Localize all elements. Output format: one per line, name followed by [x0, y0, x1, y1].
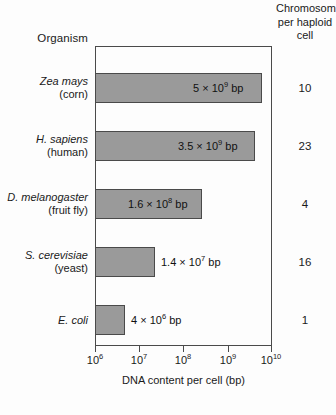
axis-tick-label: 109 — [208, 354, 248, 366]
chart-row: D. melanogaster (fruit fly) 1.6 × 108 bp… — [0, 189, 336, 219]
bar-value-label: 5 × 109 bp — [193, 82, 243, 94]
bar-value-label: 1.4 × 107 bp — [161, 256, 221, 268]
organism-label: D. melanogaster (fruit fly) — [0, 191, 88, 217]
x-axis-title: DNA content per cell (bp) — [95, 374, 272, 386]
organism-label: H. sapiens (human) — [0, 133, 88, 159]
organism-label: S. cerevisiae (yeast) — [0, 249, 88, 275]
chromosome-count: 1 — [276, 314, 334, 326]
organism-scientific-name: Zea mays — [0, 75, 88, 88]
axis-tick-label: 1010 — [251, 354, 291, 366]
axis-tick — [271, 346, 272, 352]
axis-tick-label: 108 — [163, 354, 203, 366]
organism-column-header: Organism — [8, 32, 88, 44]
axis-tick-label: 107 — [119, 354, 159, 366]
axis-tick-label: 106 — [75, 354, 115, 366]
organism-scientific-name: E. coli — [0, 314, 88, 327]
organism-scientific-name: S. cerevisiae — [0, 249, 88, 262]
organism-common-name: (fruit fly) — [0, 204, 88, 217]
organism-scientific-name: D. melanogaster — [0, 191, 88, 204]
chromosomes-header-line3: cell — [276, 29, 334, 43]
organism-common-name: (yeast) — [0, 262, 88, 275]
chromosomes-column-header: Chromosomes per haploid cell — [276, 2, 334, 43]
axis-tick — [95, 346, 96, 352]
axis-tick — [139, 346, 140, 352]
organism-label: E. coli — [0, 314, 88, 327]
chart-row: E. coli 4 × 106 bp 1 — [0, 305, 336, 335]
chromosomes-header-line1: Chromosomes — [276, 2, 334, 16]
chromosome-count: 16 — [276, 256, 334, 268]
organism-label: Zea mays (corn) — [0, 75, 88, 101]
bar-value-label: 3.5 × 109 bp — [178, 140, 238, 152]
axis-tick — [183, 346, 184, 352]
chromosome-count: 4 — [276, 198, 334, 210]
axis-tick — [228, 346, 229, 352]
bar — [95, 247, 155, 277]
organism-scientific-name: H. sapiens — [0, 133, 88, 146]
chromosome-count: 10 — [276, 82, 334, 94]
organism-common-name: (corn) — [0, 88, 88, 101]
chart-row: Zea mays (corn) 5 × 109 bp 10 — [0, 73, 336, 103]
organism-common-name: (human) — [0, 146, 88, 159]
chart-row: H. sapiens (human) 3.5 × 109 bp 23 — [0, 131, 336, 161]
bar — [95, 305, 125, 335]
chromosome-count: 23 — [276, 140, 334, 152]
chart-row: S. cerevisiae (yeast) 1.4 × 107 bp 16 — [0, 247, 336, 277]
chromosomes-header-line2: per haploid — [276, 16, 334, 30]
bar-value-label: 4 × 106 bp — [131, 314, 181, 326]
bar-value-label: 1.6 × 108 bp — [128, 198, 188, 210]
dna-content-chart: Organism Chromosomes per haploid cell Ze… — [0, 0, 336, 415]
